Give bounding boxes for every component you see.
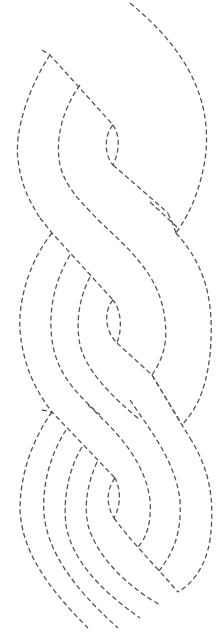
middle-band-from-top-inner-line [98,220,166,375]
top-band-lower-line [113,165,168,213]
bottom-right-arc-line [178,438,212,592]
middle-left-inner-arc-line [78,277,140,420]
bottom-mid-right-arc-line [88,405,150,548]
bottom-left-arc-4-line [86,462,160,605]
bottom-band-upper-line [42,410,115,478]
middle-band-lower-line [117,343,182,425]
dashed-stitch-lines [17,3,211,628]
middle-band-right-top-line [150,202,178,228]
top-loop-line [106,125,118,165]
bottom-loop-line [108,478,119,518]
middle-loop-line [107,300,121,343]
bottom-left-arc-1-line [20,412,88,628]
top-left-outer-arc-line [17,55,50,218]
braided-cable-pattern [0,0,224,640]
outer-right-arc-line [130,3,207,233]
middle-band-lower-2-line [152,375,190,438]
middle-right-arc-line [168,213,211,425]
bottom-band-lower-line [114,518,178,592]
middle-left-outer-arc-line [20,233,52,412]
bottom-left-arc-3-line [65,447,140,618]
middle-left-mid-arc-line [51,255,100,415]
top-left-inner-arc-line [58,85,98,220]
bottom-left-arc-2-line [44,430,118,628]
middle-band-from-top-outer-line [40,218,113,300]
